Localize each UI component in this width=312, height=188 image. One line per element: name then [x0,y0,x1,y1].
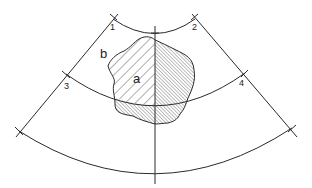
label-1: 1 [110,22,115,32]
label-a: a [133,71,141,86]
label-4: 4 [239,78,244,88]
label-3: 3 [64,81,69,91]
blob-region [100,30,200,130]
label-2: 2 [192,22,197,32]
sector-diagram: 1 2 3 4 b a [0,0,312,188]
label-b: b [100,46,107,61]
right-radial-line [192,14,297,137]
inner-arc [113,19,195,34]
